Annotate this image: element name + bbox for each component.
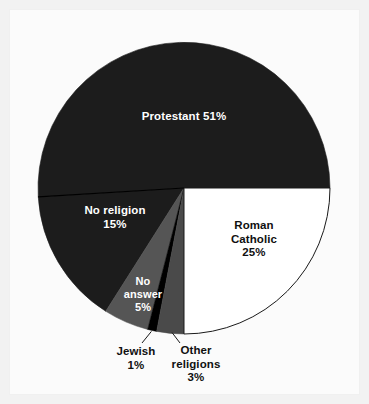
pie-chart: Protestant 51% No religion 15% Roman Cat… (0, 0, 369, 404)
leader-line-jewish (142, 331, 151, 343)
screenshot-root: Protestant 51% No religion 15% Roman Cat… (0, 0, 369, 404)
pie-label-protestant: Protestant 51% (104, 110, 264, 124)
pie-slice-roman-catholic[interactable] (184, 188, 330, 334)
pie-label-other-religions: Other religions 3% (160, 344, 232, 385)
pie-label-jewish: Jewish 1% (105, 345, 167, 372)
pie-label-no-religion: No religion 15% (58, 204, 172, 231)
pie-label-no-answer: No answer 5% (112, 275, 174, 314)
pie-label-roman-catholic: Roman Catholic 25% (198, 219, 310, 260)
